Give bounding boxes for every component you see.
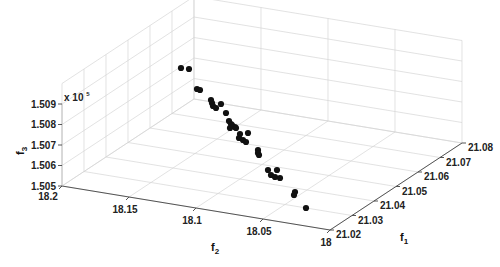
f1-tick-label: 21.08: [468, 142, 493, 153]
z-tick-label: 1.506: [31, 160, 56, 171]
data-point: [243, 139, 249, 145]
data-point: [213, 105, 219, 111]
data-point: [218, 101, 224, 107]
data-point: [245, 130, 251, 136]
f1-tick-label: 21.03: [358, 215, 383, 226]
tick-labels: 1.5051.5061.5071.5081.5091818.0518.118.1…: [31, 99, 493, 249]
scatter-3d-chart: 1.5051.5061.5071.5081.5091818.0518.118.1…: [0, 0, 500, 267]
f2-tick-label: 18.2: [38, 191, 58, 202]
z-tick-label: 1.509: [31, 99, 56, 110]
data-point: [303, 205, 309, 211]
data-point: [274, 167, 280, 173]
f2-tick-label: 18: [320, 237, 332, 248]
data-point: [223, 110, 229, 116]
f1-tick-label: 21.05: [402, 186, 427, 197]
z-exponent-label: x 10 5: [64, 91, 90, 103]
data-point: [197, 87, 203, 93]
data-point: [233, 125, 239, 131]
f3-axis-label: f3: [14, 146, 29, 155]
f2-tick-label: 18.05: [246, 226, 271, 237]
data-point: [178, 65, 184, 71]
data-point: [277, 175, 283, 181]
f1-tick-label: 21.04: [380, 200, 405, 211]
z-tick-label: 1.505: [31, 181, 56, 192]
data-point: [291, 192, 297, 198]
f1-tick-label: 21.06: [424, 171, 449, 182]
data-point: [256, 152, 262, 158]
f1-tick-label: 21.07: [446, 157, 471, 168]
z-tick-label: 1.507: [31, 140, 56, 151]
f2-axis-label: f2: [211, 241, 220, 256]
f2-tick-label: 18.1: [182, 215, 202, 226]
data-point: [186, 66, 192, 72]
f1-tick-label: 21.02: [336, 229, 361, 240]
z-tick-label: 1.508: [31, 119, 56, 130]
f2-tick-label: 18.15: [112, 204, 137, 215]
f1-axis-label: f1: [400, 231, 409, 246]
